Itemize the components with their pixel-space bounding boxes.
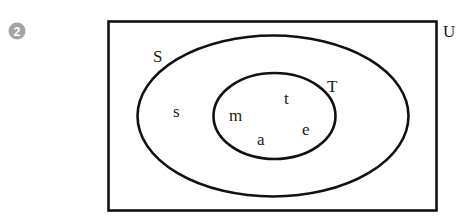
- element-e: e: [302, 120, 310, 139]
- problem-number: 2: [14, 25, 21, 39]
- universal-set-label: U: [443, 22, 455, 41]
- element-a: a: [257, 130, 265, 149]
- problem-number-badge: 2: [9, 23, 26, 40]
- element-t: t: [284, 89, 289, 108]
- set-s-label: S: [153, 47, 162, 66]
- element-m: m: [229, 106, 242, 125]
- venn-diagram-figure: 2 U S T s m t e a: [0, 0, 470, 218]
- set-t-label: T: [327, 77, 338, 96]
- element-s: s: [173, 102, 180, 121]
